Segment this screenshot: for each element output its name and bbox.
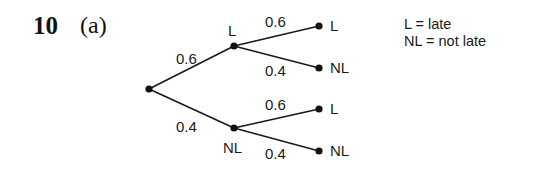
outcome-L: L	[228, 22, 236, 39]
prob-L-NL: 0.4	[265, 62, 286, 79]
prob-root-NL: 0.4	[176, 118, 197, 135]
prob-NL-L: 0.6	[265, 96, 286, 113]
node-L-L	[315, 22, 322, 29]
outcome-NL: NL	[223, 139, 242, 156]
node-NL-L	[315, 105, 322, 112]
key-late: L = late	[404, 16, 486, 33]
prob-NL-NL: 0.4	[265, 145, 286, 162]
node-L-NL	[315, 64, 322, 71]
node-root	[145, 85, 152, 92]
leaf-L-L: L	[330, 17, 338, 34]
node-NL-NL	[315, 147, 322, 154]
node-NL	[230, 124, 237, 131]
prob-L-L: 0.6	[265, 13, 286, 30]
node-L	[230, 42, 237, 49]
legend-key: L = late NL = not late	[404, 16, 486, 50]
prob-root-L: 0.6	[176, 50, 197, 67]
leaf-NL-NL: NL	[330, 142, 349, 159]
leaf-NL-L: L	[330, 100, 338, 117]
leaf-L-NL: NL	[330, 59, 349, 76]
key-not-late: NL = not late	[404, 33, 486, 50]
